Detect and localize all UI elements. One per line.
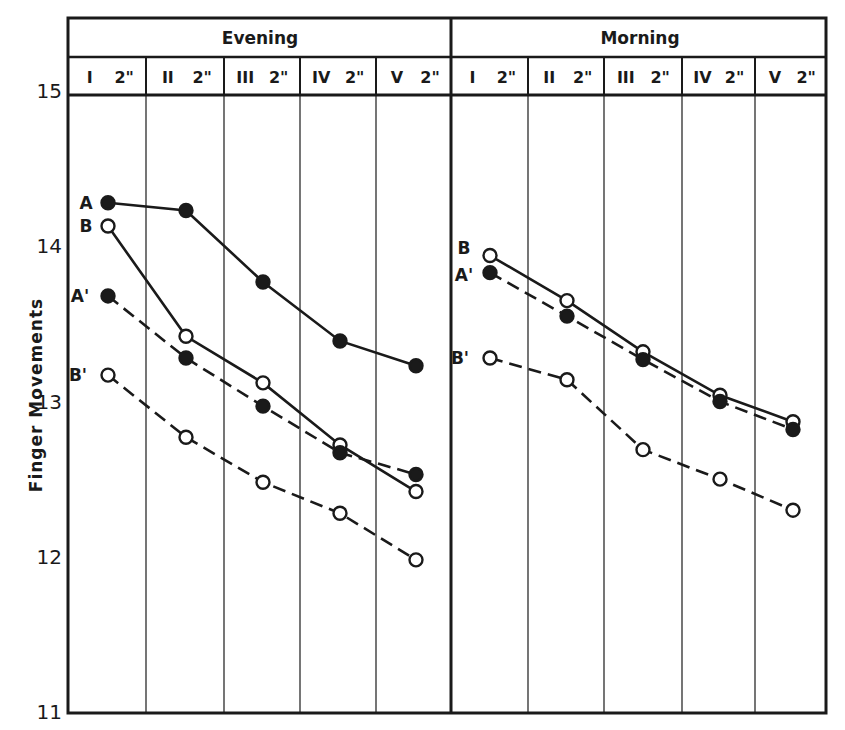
data-point <box>637 443 650 456</box>
data-point <box>257 476 270 489</box>
series-label: B' <box>69 365 87 385</box>
column-duration-label: 2" <box>573 68 592 87</box>
data-point <box>787 423 800 436</box>
column-roman-label: I <box>87 68 93 87</box>
data-point <box>334 446 347 459</box>
data-point <box>714 473 727 486</box>
data-point <box>561 310 574 323</box>
y-tick-label: 15 <box>37 79 62 103</box>
series-label: A' <box>455 265 473 285</box>
data-point <box>334 334 347 347</box>
column-duration-label: 2" <box>345 68 364 87</box>
column-duration-label: 2" <box>114 68 133 87</box>
data-point <box>410 468 423 481</box>
chart-frame <box>68 18 826 713</box>
column-roman-label: II <box>543 68 555 87</box>
column-roman-label: IV <box>312 68 331 87</box>
column-roman-label: I <box>470 68 476 87</box>
panel-title-evening: Evening <box>222 28 298 48</box>
data-point <box>102 289 115 302</box>
data-point <box>484 249 497 262</box>
column-duration-label: 2" <box>269 68 288 87</box>
column-roman-label: V <box>391 68 404 87</box>
column-duration-label: 2" <box>796 68 815 87</box>
column-duration-label: 2" <box>650 68 669 87</box>
data-point <box>410 553 423 566</box>
series-B-morning <box>484 249 800 428</box>
data-point <box>787 504 800 517</box>
data-point <box>180 330 193 343</box>
data-point <box>180 204 193 217</box>
column-duration-label: 2" <box>420 68 439 87</box>
column-duration-label: 2" <box>725 68 744 87</box>
series-label: A' <box>71 286 89 306</box>
column-roman-label: III <box>236 68 254 87</box>
data-point <box>410 485 423 498</box>
data-point <box>102 369 115 382</box>
data-point <box>257 275 270 288</box>
data-point <box>561 373 574 386</box>
column-roman-label: IV <box>693 68 712 87</box>
data-point <box>102 220 115 233</box>
data-point <box>102 196 115 209</box>
series-label: B <box>458 238 471 258</box>
data-point <box>180 431 193 444</box>
y-tick-label: 14 <box>37 234 62 258</box>
data-point <box>257 400 270 413</box>
panel-title-morning: Morning <box>600 28 679 48</box>
data-point <box>410 359 423 372</box>
data-point <box>561 294 574 307</box>
series-B-evening <box>102 220 423 498</box>
y-tick-label: 11 <box>37 700 62 724</box>
data-point <box>484 352 497 365</box>
data-point <box>334 507 347 520</box>
series-label: A <box>79 193 93 213</box>
finger-movements-chart: Finger Movements 1112131415 Evening Morn… <box>0 0 845 730</box>
y-tick-label: 13 <box>37 390 62 414</box>
data-point <box>180 352 193 365</box>
column-roman-label: III <box>617 68 635 87</box>
column-roman-label: V <box>769 68 782 87</box>
series-Bprime-morning <box>484 352 800 517</box>
column-roman-label: II <box>162 68 174 87</box>
y-tick-label: 12 <box>37 545 62 569</box>
data-point <box>257 376 270 389</box>
series-label: B <box>80 216 93 236</box>
column-duration-label: 2" <box>192 68 211 87</box>
data-point <box>484 266 497 279</box>
data-point <box>714 395 727 408</box>
data-point <box>637 353 650 366</box>
column-duration-label: 2" <box>497 68 516 87</box>
y-axis-ticks: 1112131415 <box>37 79 62 724</box>
series-label: B' <box>451 348 469 368</box>
